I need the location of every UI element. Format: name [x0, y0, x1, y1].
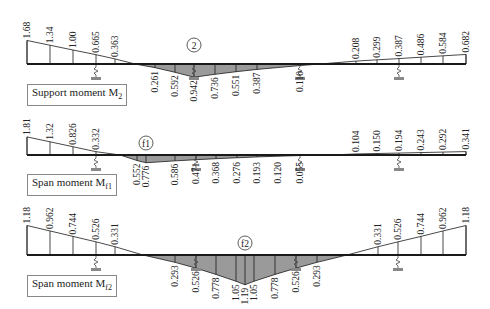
moment-value-label: 0.194	[394, 129, 404, 151]
moment-value-label: 0.150	[372, 130, 382, 152]
moment-value-label: 0.778	[270, 277, 280, 299]
title-text: Support moment M	[32, 86, 118, 98]
spring-support-icon	[394, 156, 404, 171]
moment-value-label: 0.331	[110, 223, 120, 245]
moment-value-label: 0.332	[91, 128, 101, 150]
moment-value-label: 0.331	[373, 223, 383, 245]
moment-value-label: 0.363	[110, 35, 120, 57]
moment-value-label: 0.341	[461, 128, 471, 150]
svg-text:2: 2	[192, 41, 197, 51]
moment-value-label: 0.551	[231, 74, 241, 96]
negative-moment-area	[120, 155, 330, 163]
moment-value-label: 0.778	[211, 277, 221, 299]
moment-value-label: 0.055	[295, 162, 305, 184]
negative-moment-area	[135, 64, 320, 77]
positive-moment-area-right	[320, 54, 466, 64]
section-marker: f1	[139, 136, 153, 150]
moment-value-label: 0.682	[461, 31, 471, 53]
moment-value-label: 0.526	[91, 218, 101, 240]
section-marker: f2	[238, 236, 252, 250]
moment-value-label: 0.208	[351, 37, 361, 59]
moment-value-label: 0.261	[150, 71, 160, 93]
spring-support-icon	[394, 65, 404, 80]
spring-support-icon	[91, 156, 101, 171]
moment-value-label: 0.293	[312, 265, 322, 287]
title-subscript: f2	[105, 283, 112, 292]
moment-value-label: 1.05	[249, 284, 259, 301]
moment-value-label: 1.18	[22, 207, 32, 224]
moment-value-label: 0.276	[232, 162, 242, 184]
title-subscript: 2	[118, 92, 122, 101]
moment-value-label: 0.592	[170, 75, 180, 97]
section-marker: 2	[187, 38, 201, 52]
positive-moment-area-right	[347, 226, 466, 256]
moment-diagrams-canvas: 1.681.341.000.6650.3630.2080.2990.3870.4…	[0, 0, 490, 309]
moment-value-label: 0.110	[295, 71, 305, 92]
svg-text:f2: f2	[241, 239, 249, 249]
moment-value-label: 0.744	[68, 213, 78, 235]
moment-value-label: 0.584	[438, 32, 448, 54]
moment-value-label: 0.776	[141, 166, 151, 188]
moment-value-label: 0.120	[273, 162, 283, 184]
moment-value-label: 0.193	[252, 162, 262, 184]
moment-value-label: 0.387	[252, 72, 262, 94]
moment-value-label: 0.526	[393, 218, 403, 240]
title-text: Span moment M	[32, 277, 105, 289]
moment-value-label: 0.526	[291, 271, 301, 293]
moment-value-label: 0.962	[45, 207, 55, 229]
moment-value-label: 0.526	[191, 271, 201, 293]
moment-value-label: 0.486	[416, 34, 426, 56]
title-text: Span moment M	[32, 176, 105, 188]
svg-text:f1: f1	[142, 139, 150, 149]
moment-value-label: 0.586	[170, 164, 180, 186]
spring-support-icon	[393, 256, 403, 271]
span-moment-mf1-title: Span moment Mf1	[27, 174, 117, 196]
moment-value-label: 0.826	[68, 123, 78, 145]
moment-value-label: 1.32	[45, 123, 55, 140]
moment-value-label: 0.293	[170, 265, 180, 287]
moment-value-label: 1.18	[461, 207, 471, 224]
spring-support-icon	[91, 256, 101, 271]
moment-value-label: 0.942	[189, 80, 199, 102]
moment-value-label: 0.962	[438, 207, 448, 229]
span-moment-mf2-title: Span moment Mf2	[27, 275, 117, 297]
support-moment-m2-title: Support moment M2	[27, 84, 127, 106]
moment-value-label: 1.81	[22, 118, 32, 135]
moment-value-label: 1.00	[68, 31, 78, 48]
moment-value-label: 0.736	[210, 77, 220, 99]
moment-value-label: 0.243	[416, 129, 426, 151]
moment-value-label: 0.104	[351, 130, 361, 152]
title-subscript: f1	[105, 182, 112, 191]
moment-value-label: 0.368	[211, 162, 221, 184]
spring-support-icon	[91, 65, 101, 80]
moment-value-label: 0.299	[372, 36, 382, 58]
moment-value-label: 1.34	[45, 26, 55, 43]
moment-value-label: 0.665	[91, 31, 101, 53]
moment-value-label: 0.387	[394, 35, 404, 57]
moment-value-label: 1.68	[22, 22, 32, 39]
moment-value-label: 0.744	[416, 213, 426, 235]
moment-value-label: 0.292	[438, 128, 448, 150]
moment-value-label: 0.471	[191, 162, 201, 184]
